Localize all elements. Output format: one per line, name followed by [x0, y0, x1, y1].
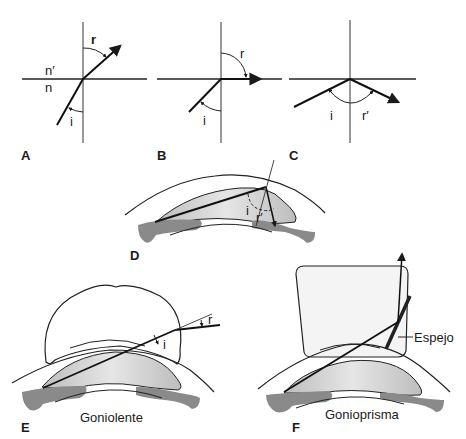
incident-ray [294, 79, 350, 107]
medium-n-prime-label: n′ [45, 63, 55, 78]
angle-i-label: i [163, 337, 166, 352]
anterior-chamber [284, 360, 422, 395]
angle-r-arrow [201, 320, 202, 326]
angle-i-label: i [330, 108, 333, 123]
angle-r-prime-label: r′ [362, 108, 369, 123]
panel-letter-e: E [21, 420, 30, 435]
panel-b: r i B [157, 22, 282, 163]
angle-i-label: i [70, 114, 73, 129]
iris-right [136, 387, 200, 409]
optics-diagram: r i n′ n A r i B i r′ C [0, 0, 466, 439]
gonioprism-body [296, 266, 408, 357]
panel-letter-c: C [289, 148, 299, 163]
angle-r-label: r [240, 46, 245, 61]
mirror-label: Espejo [414, 330, 454, 345]
angle-r-arc [83, 48, 106, 57]
panel-letter-f: F [292, 420, 300, 435]
angle-r-prime-label: r′ [256, 210, 263, 225]
angle-i-label: i [246, 203, 249, 218]
panel-letter-b: B [157, 148, 166, 163]
panel-d-eye-angle: i r′ D [125, 160, 325, 263]
angle-r-arrow [369, 91, 373, 95]
anterior-chamber [156, 188, 296, 224]
iris-left [266, 391, 332, 412]
angle-r-label: r [208, 312, 213, 327]
angle-i-label: i [203, 113, 206, 128]
panel-letter-d: D [130, 248, 139, 263]
refracted-ray [83, 46, 120, 79]
panel-letter-a: A [21, 148, 31, 163]
panel-a: r i n′ n A [21, 22, 147, 163]
iris-left [22, 386, 87, 411]
panel-c: i r′ C [289, 20, 416, 163]
angle-i-arc [201, 102, 221, 111]
incident-ray [189, 79, 221, 112]
medium-n-label: n [45, 80, 52, 95]
angle-i-arc [69, 108, 83, 112]
caption-gonioprisma: Gonioprisma [325, 407, 399, 422]
panel-f-gonioprism: Espejo Gonioprisma F [258, 254, 454, 435]
reflected-ray [350, 79, 398, 102]
iris-left [138, 220, 202, 243]
angle-r-label: r [91, 32, 96, 47]
caption-goniolente: Goniolente [80, 410, 143, 425]
panel-e-goniolens: r i Goniolente E [12, 285, 220, 435]
